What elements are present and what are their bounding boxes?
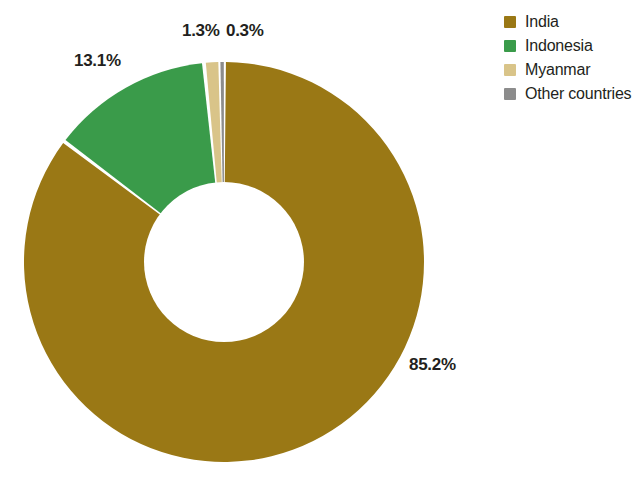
legend-swatch-india: [504, 16, 516, 28]
legend-item-indonesia[interactable]: Indonesia: [504, 34, 639, 58]
slice-label-other-countries: 0.3%: [226, 21, 264, 41]
chart-plot-area: 13.1% 1.3% 0.3% 85.2%: [0, 0, 470, 487]
legend-swatch-indonesia: [504, 40, 516, 52]
legend-label-other-countries: Other countries: [525, 86, 631, 102]
donut-chart-figure: 13.1% 1.3% 0.3% 85.2% India Indonesia My…: [0, 0, 639, 487]
donut-chart-svg: [0, 0, 470, 487]
donut-center-hole: [144, 182, 304, 342]
slice-label-myanmar: 1.3%: [182, 21, 220, 41]
slice-label-india: 85.2%: [409, 355, 456, 375]
slice-label-indonesia: 13.1%: [74, 51, 121, 71]
legend-item-other-countries[interactable]: Other countries: [504, 82, 639, 106]
legend-label-india: India: [525, 14, 559, 30]
legend-item-india[interactable]: India: [504, 10, 639, 34]
legend-swatch-other-countries: [504, 88, 516, 100]
legend-label-indonesia: Indonesia: [525, 38, 593, 54]
legend-swatch-myanmar: [504, 64, 516, 76]
legend-item-myanmar[interactable]: Myanmar: [504, 58, 639, 82]
legend-label-myanmar: Myanmar: [525, 62, 590, 78]
chart-legend: India Indonesia Myanmar Other countries: [504, 10, 639, 106]
